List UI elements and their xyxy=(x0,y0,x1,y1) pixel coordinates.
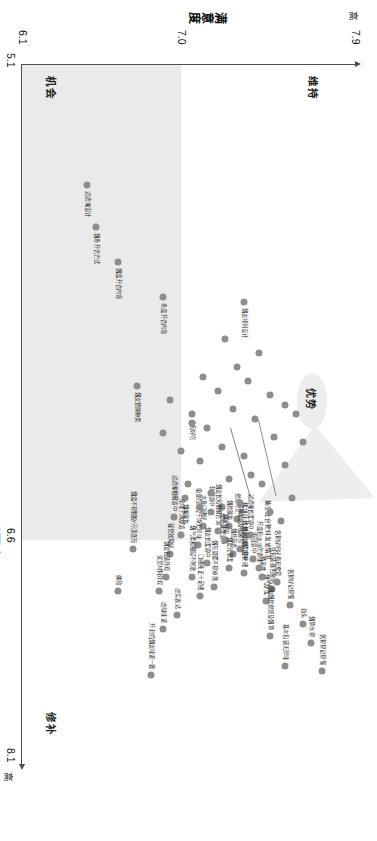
data-point[interactable] xyxy=(266,392,273,399)
data-point[interactable] xyxy=(222,336,229,343)
data-point[interactable] xyxy=(204,560,211,567)
data-point[interactable] xyxy=(255,350,262,357)
data-point[interactable] xyxy=(229,406,236,413)
data-point[interactable] xyxy=(159,429,166,436)
data-point[interactable] xyxy=(130,546,137,553)
scatter-plot: 7.9 高 7.0 6.1 5.1 6.6 8.1 高 重要度 满意度 维持 机… xyxy=(0,0,377,841)
data-point-label: 烟支排列设计 xyxy=(241,308,247,339)
data-point-label: 烟支光滑度 xyxy=(226,537,232,563)
data-point[interactable] xyxy=(163,574,170,581)
data-point[interactable] xyxy=(281,663,288,670)
y-axis-arrow-icon xyxy=(355,61,361,67)
data-point[interactable] xyxy=(196,593,203,600)
data-point[interactable] xyxy=(133,383,140,390)
data-point-label: 烟支包装外观 xyxy=(164,541,170,572)
data-point[interactable] xyxy=(252,415,259,422)
data-point[interactable] xyxy=(300,621,307,628)
data-point[interactable] xyxy=(281,462,288,469)
x-axis-title: 重要度 xyxy=(0,520,3,559)
data-point[interactable] xyxy=(237,499,244,506)
data-point[interactable] xyxy=(278,518,285,525)
data-point[interactable] xyxy=(115,259,122,266)
data-point[interactable] xyxy=(215,527,222,534)
data-point[interactable] xyxy=(259,481,266,488)
data-point-label: 口感纯正十足感 xyxy=(197,554,203,590)
y-axis-title: 满意度 xyxy=(188,8,227,25)
data-point[interactable] xyxy=(218,443,225,450)
data-point[interactable] xyxy=(287,602,294,609)
data-point[interactable] xyxy=(178,532,185,539)
data-point[interactable] xyxy=(200,373,207,380)
data-point[interactable] xyxy=(289,495,296,502)
data-point-label: 名称好听好看有寓意 xyxy=(275,530,281,576)
data-point[interactable] xyxy=(159,625,166,632)
data-point[interactable] xyxy=(307,639,314,646)
data-point[interactable] xyxy=(189,574,196,581)
data-point[interactable] xyxy=(148,672,155,679)
data-point-label: 火/烟/烟丝燃烧及烟草 xyxy=(267,581,273,630)
data-point[interactable] xyxy=(233,364,240,371)
y-tick-max: 7.9 xyxy=(350,30,362,45)
x-tick-mid: 6.6 xyxy=(5,528,17,543)
data-point-label: 烟草水帘 xyxy=(308,616,314,636)
data-point-label: 烟支有咽口舒畅感 xyxy=(241,526,247,567)
data-point-label: 烟支长度适中 xyxy=(204,527,210,558)
data-point[interactable] xyxy=(178,448,185,455)
data-point[interactable] xyxy=(207,509,214,516)
data-point-label: 奖赏材料外观 xyxy=(156,555,162,586)
data-point[interactable] xyxy=(167,397,174,404)
data-point[interactable] xyxy=(226,565,233,572)
data-point[interactable] xyxy=(259,574,266,581)
data-point-label: 烟支长短粗细合适 xyxy=(215,484,221,525)
data-point[interactable] xyxy=(281,401,288,408)
data-point[interactable] xyxy=(196,457,203,464)
y-tick-mid: 7.0 xyxy=(176,30,188,45)
data-point[interactable] xyxy=(241,299,248,306)
data-point[interactable] xyxy=(266,632,273,639)
data-point[interactable] xyxy=(207,490,214,497)
data-point-label: 过滤嘴粗细适中 xyxy=(171,475,177,511)
data-point[interactable] xyxy=(83,182,90,189)
data-point[interactable] xyxy=(155,588,162,595)
data-point-label: 劲头 xyxy=(300,608,306,618)
data-point[interactable] xyxy=(270,434,277,441)
data-point[interactable] xyxy=(266,509,273,516)
data-point[interactable] xyxy=(248,471,255,478)
data-point-label: 体验 xyxy=(115,575,121,585)
data-point[interactable] xyxy=(159,294,166,301)
data-point-label: 过滤嘴设计 xyxy=(84,191,90,217)
data-point[interactable] xyxy=(204,425,211,432)
data-point[interactable] xyxy=(185,481,192,488)
x-axis-high-label: 高 xyxy=(2,772,16,782)
data-point[interactable] xyxy=(215,387,222,394)
data-point-label: 名称好记易懂 xyxy=(287,569,293,600)
data-point[interactable] xyxy=(211,583,218,590)
quadrant-label-repair: 修补 xyxy=(44,712,59,735)
y-axis-high-label: 高 xyxy=(347,11,361,21)
x-tick-min: 5.1 xyxy=(5,53,17,68)
data-point[interactable] xyxy=(196,504,203,511)
callout-leader-b xyxy=(230,428,251,497)
data-point[interactable] xyxy=(300,439,307,446)
data-point[interactable] xyxy=(174,611,181,618)
data-point[interactable] xyxy=(241,569,248,576)
data-point-label: 烟气柔和细腻不刺激 xyxy=(189,525,195,571)
data-point-label: 余味干净舒适 xyxy=(178,499,184,530)
x-axis-line xyxy=(21,64,22,764)
data-point-label: 条盒开合内容 xyxy=(160,303,166,334)
x-axis-arrow-icon xyxy=(20,764,26,770)
data-point[interactable] xyxy=(115,588,122,595)
data-point[interactable] xyxy=(189,420,196,427)
data-point[interactable] xyxy=(226,476,233,483)
data-point[interactable] xyxy=(93,224,100,231)
data-point[interactable] xyxy=(189,411,196,418)
data-point[interactable] xyxy=(318,667,325,674)
data-point[interactable] xyxy=(292,411,299,418)
data-point[interactable] xyxy=(244,378,251,385)
data-point[interactable] xyxy=(170,513,177,520)
data-point-label: 虚拟味道 xyxy=(160,602,166,622)
data-point[interactable] xyxy=(255,565,262,572)
data-point[interactable] xyxy=(274,579,281,586)
data-point-label: 基本包装无异味 xyxy=(282,624,288,660)
data-point[interactable] xyxy=(241,453,248,460)
